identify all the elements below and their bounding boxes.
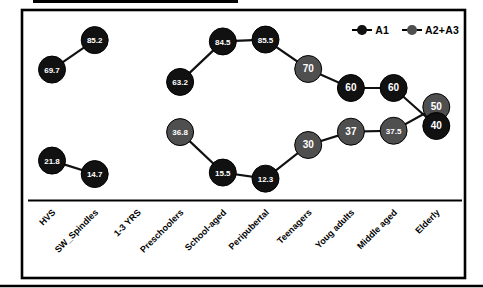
data-point-label: 30 xyxy=(303,139,315,150)
data-point-label: 50 xyxy=(431,101,443,112)
data-point-label: 60 xyxy=(388,82,400,93)
cap-subtypes-figure: HVSSW_Spindles1-3 YRSPreschoolersSchool-… xyxy=(0,0,483,288)
legend-item-a2a3: A2+A3 xyxy=(402,24,459,36)
legend-label-a1: A1 xyxy=(375,24,389,36)
data-point-label: 40 xyxy=(431,120,443,131)
legend-label-a2a3: A2+A3 xyxy=(425,24,459,36)
data-point-label: 70 xyxy=(303,63,315,74)
chart-canvas: HVSSW_Spindles1-3 YRSPreschoolersSchool-… xyxy=(0,0,483,288)
data-point-label: 12.3 xyxy=(258,175,274,184)
data-point-label: 60 xyxy=(345,82,357,93)
data-point-label: 36.8 xyxy=(172,128,188,137)
data-point-label: 37 xyxy=(345,126,357,137)
legend: A1 A2+A3 xyxy=(352,24,459,36)
data-point-label: 84.5 xyxy=(215,38,231,47)
data-point-label: 14.7 xyxy=(87,170,103,179)
data-point-label: 69.7 xyxy=(44,66,60,75)
data-point-label: 37.5 xyxy=(386,127,402,136)
a2a3-line-marker-icon xyxy=(402,29,422,31)
data-point-label: 85.2 xyxy=(87,36,103,45)
legend-item-a1: A1 xyxy=(352,24,389,36)
data-point-label: 21.8 xyxy=(44,157,60,166)
a1-line-marker-icon xyxy=(352,29,372,31)
data-point-label: 15.5 xyxy=(215,169,231,178)
data-point-label: 63.2 xyxy=(172,78,188,87)
data-point-label: 85.5 xyxy=(258,36,274,45)
